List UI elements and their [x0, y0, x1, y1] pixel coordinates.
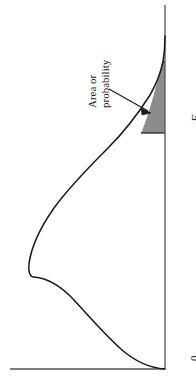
shaded-tail-area [141, 62, 165, 133]
origin-axis-label: 0 [188, 356, 196, 362]
annotation-line-1: Area or [86, 60, 99, 108]
annotation-line-2: probability [99, 60, 112, 108]
critical-value-label-base: F [189, 115, 196, 122]
figure-canvas: Area or probability Fα 0 [0, 0, 196, 392]
critical-value-label: Fα [189, 110, 196, 122]
annotation-arrow-line [109, 89, 148, 111]
area-probability-annotation: Area or probability [86, 60, 112, 108]
